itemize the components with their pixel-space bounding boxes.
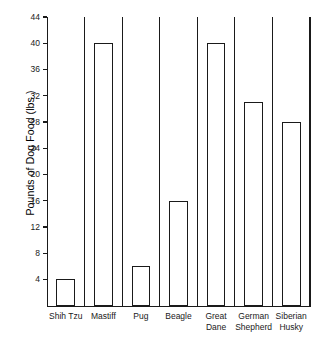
- y-tick: 12: [43, 226, 47, 227]
- x-axis-label-line: Husky: [268, 322, 314, 333]
- y-tick: 36: [43, 69, 47, 70]
- y-tick-label: 36: [31, 65, 40, 74]
- plot-area: 48121620242832364044: [47, 17, 310, 307]
- y-tick: 40: [43, 43, 47, 44]
- category-divider: [159, 17, 160, 307]
- x-axis-line: [47, 306, 310, 307]
- y-tick: 8: [43, 253, 47, 254]
- category-divider: [197, 17, 198, 307]
- x-axis-label-line: Siberian: [268, 311, 314, 322]
- y-tick: 24: [43, 148, 47, 149]
- category-divider: [309, 17, 310, 307]
- x-axis-label: SiberianHusky: [268, 311, 314, 332]
- y-tick: 4: [43, 279, 47, 280]
- y-tick-label: 24: [31, 144, 40, 153]
- category-divider: [234, 17, 235, 307]
- y-tick-label: 4: [35, 275, 40, 284]
- y-tick: 20: [43, 174, 47, 175]
- y-tick-label: 16: [31, 196, 40, 205]
- y-tick-label: 20: [31, 170, 40, 179]
- bar-chart: Pounds of Dog Food (lbs.) 48121620242832…: [0, 0, 320, 342]
- y-tick: 44: [43, 16, 47, 17]
- bar: [244, 102, 263, 305]
- y-tick: 16: [43, 200, 47, 201]
- y-axis-line: [47, 17, 48, 307]
- bar: [282, 122, 301, 306]
- y-tick-label: 32: [31, 91, 40, 100]
- category-divider: [272, 17, 273, 307]
- y-tick-label: 28: [31, 118, 40, 127]
- y-tick: 28: [43, 121, 47, 122]
- y-tick-label: 12: [31, 223, 40, 232]
- bar: [169, 201, 188, 306]
- category-divider: [84, 17, 85, 307]
- bar: [94, 43, 113, 305]
- bar: [207, 43, 226, 305]
- y-tick: 32: [43, 95, 47, 96]
- y-tick-label: 40: [31, 39, 40, 48]
- category-divider: [122, 17, 123, 307]
- y-tick-label: 44: [31, 13, 40, 22]
- bar: [56, 279, 75, 305]
- bar: [132, 266, 151, 305]
- y-tick-label: 8: [35, 249, 40, 258]
